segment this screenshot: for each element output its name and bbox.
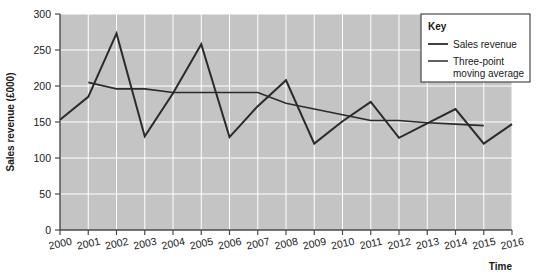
- legend-label-moving-average-line1: Three-point: [453, 56, 504, 67]
- y-tick-label-50: 50: [39, 188, 51, 200]
- legend-title: Key: [428, 21, 447, 32]
- x-axis-label: Time: [489, 261, 513, 272]
- y-tick-label-0: 0: [45, 224, 51, 236]
- legend-label-moving-average-line2: moving average: [453, 68, 525, 79]
- y-tick-label-300: 300: [33, 8, 51, 20]
- chart-legend: Key Sales revenue Three-point moving ave…: [421, 14, 530, 82]
- y-axis-label: Sales revenue (£000): [5, 73, 16, 172]
- legend-label-sales-revenue: Sales revenue: [453, 39, 517, 50]
- sales-revenue-line-chart: 050100150200250300 200020012002200320042…: [0, 0, 540, 279]
- y-tick-label-150: 150: [33, 116, 51, 128]
- y-tick-label-100: 100: [33, 152, 51, 164]
- chart-canvas: 050100150200250300 200020012002200320042…: [0, 0, 540, 279]
- y-tick-label-200: 200: [33, 80, 51, 92]
- y-tick-label-250: 250: [33, 44, 51, 56]
